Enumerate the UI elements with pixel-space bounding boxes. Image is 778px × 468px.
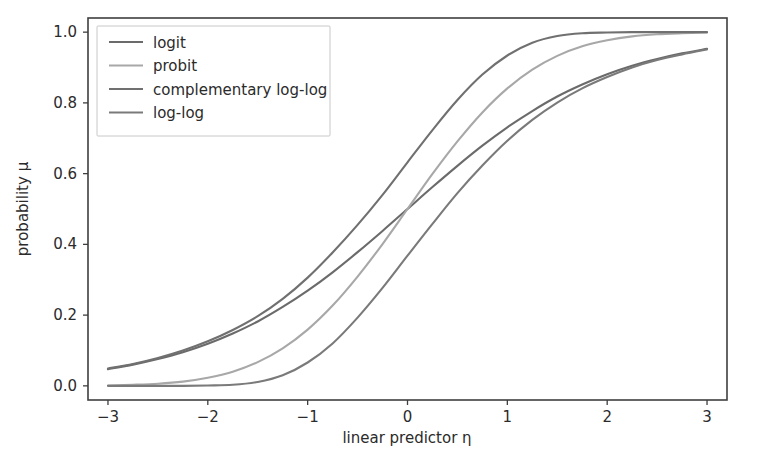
x-axis-title: linear predictor η (342, 429, 471, 447)
y-tick-label: 0.6 (53, 165, 77, 183)
x-tick-label: −3 (97, 408, 119, 426)
y-tick-label: 0.8 (53, 94, 77, 112)
x-tick-label: −1 (297, 408, 319, 426)
chart-legend: logitprobitcomplementary log-loglog-log (97, 26, 330, 136)
y-tick-label: 1.0 (53, 23, 77, 41)
link-function-plot: −3−2−101230.00.20.40.60.81.0 logitprobit… (0, 0, 778, 468)
legend-label-loglog: log-log (153, 104, 204, 122)
legend-label-cloglog: complementary log-log (153, 81, 327, 99)
y-axis-title: probability μ (14, 161, 32, 256)
x-tick-label: 2 (602, 408, 612, 426)
y-tick-label: 0.0 (53, 377, 77, 395)
x-tick-label: 1 (503, 408, 513, 426)
y-tick-label: 0.4 (53, 235, 77, 253)
x-tick-label: 0 (403, 408, 413, 426)
y-tick-label: 0.2 (53, 306, 77, 324)
chart-figure: −3−2−101230.00.20.40.60.81.0 logitprobit… (0, 0, 778, 468)
x-tick-label: 3 (702, 408, 712, 426)
legend-label-probit: probit (153, 57, 197, 75)
legend-label-logit: logit (153, 34, 186, 52)
x-tick-label: −2 (197, 408, 219, 426)
